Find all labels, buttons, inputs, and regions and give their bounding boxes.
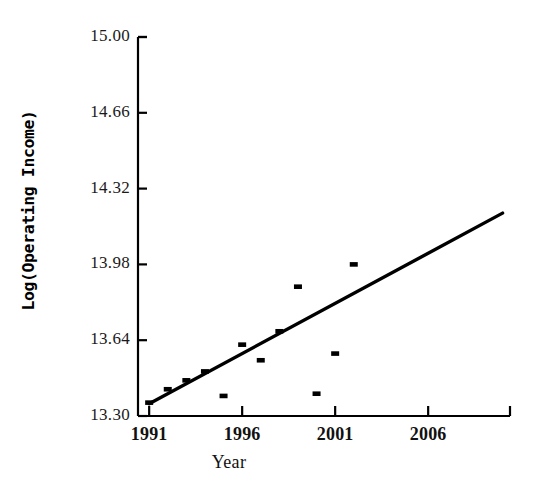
data-point-marker bbox=[331, 351, 339, 356]
x-tick-label: 1996 bbox=[202, 424, 282, 445]
axis-lines bbox=[138, 37, 510, 416]
x-tick-label: 2001 bbox=[295, 424, 375, 445]
x-tick-label: 2006 bbox=[388, 424, 468, 445]
chart-figure: Log(Operating Income) 13.3013.6413.9814.… bbox=[0, 0, 538, 492]
data-point-marker bbox=[220, 394, 228, 399]
data-point-marker bbox=[294, 284, 302, 289]
data-point-marker bbox=[238, 342, 246, 347]
x-axis-title: Year bbox=[0, 452, 538, 473]
data-point-marker bbox=[313, 391, 321, 396]
data-point-marker bbox=[164, 387, 172, 392]
x-axis-title-text: Year bbox=[212, 452, 246, 472]
x-axis-ticks bbox=[149, 406, 510, 416]
chart-plot-area bbox=[0, 0, 538, 492]
data-point-marker bbox=[257, 358, 265, 363]
data-point-marker bbox=[201, 369, 209, 374]
data-point-marker bbox=[145, 400, 153, 405]
x-tick-label: 1991 bbox=[109, 424, 189, 445]
trend-line bbox=[149, 213, 502, 404]
fitted-trend-line bbox=[149, 213, 502, 404]
y-axis-ticks bbox=[138, 37, 147, 416]
data-point-marker bbox=[182, 378, 190, 383]
data-points bbox=[145, 262, 358, 405]
data-point-marker bbox=[350, 262, 358, 267]
data-point-marker bbox=[275, 329, 283, 334]
